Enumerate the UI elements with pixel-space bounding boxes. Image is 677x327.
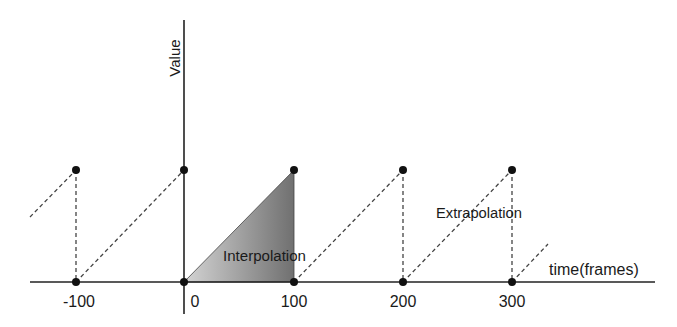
tick-label: 300 xyxy=(499,293,526,310)
y-axis-label: Value xyxy=(166,39,183,76)
tick-label: 0 xyxy=(191,293,200,310)
tick-label: -100 xyxy=(63,293,95,310)
tick-label: 200 xyxy=(390,293,417,310)
interpolation-extrapolation-diagram: Value time(frames) -100 0 100 200 300 In… xyxy=(0,0,677,327)
interpolation-label: Interpolation xyxy=(223,248,306,264)
extrapolation-label: Extrapolation xyxy=(436,205,522,221)
tick-label: 100 xyxy=(281,293,308,310)
interpolation-region xyxy=(184,170,294,282)
x-axis-label: time(frames) xyxy=(549,261,639,278)
